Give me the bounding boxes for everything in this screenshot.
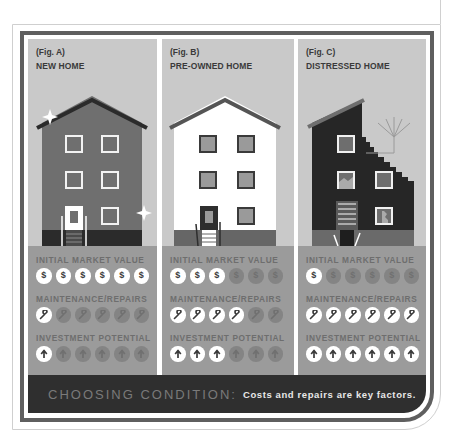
pre-owned-home-illustration bbox=[162, 39, 294, 246]
up-arrow-icon bbox=[75, 346, 91, 362]
rating-row: $$$$$$ bbox=[36, 268, 149, 284]
wrench-icon bbox=[248, 307, 264, 323]
wrench-icon bbox=[134, 307, 150, 323]
up-arrow-icon bbox=[95, 346, 111, 362]
wrench-icon bbox=[365, 307, 381, 323]
dollar-icon: $ bbox=[36, 268, 52, 284]
banner-title: CHOOSING CONDITION: bbox=[48, 387, 237, 402]
wrench-icon bbox=[306, 307, 322, 323]
dollar-icon: $ bbox=[268, 268, 284, 284]
up-arrow-icon bbox=[56, 346, 72, 362]
dollar-icon: $ bbox=[384, 268, 400, 284]
dollar-icon: $ bbox=[134, 268, 150, 284]
dollar-icon: $ bbox=[170, 268, 186, 284]
wrench-icon bbox=[56, 307, 72, 323]
wrench-icon bbox=[209, 307, 225, 323]
dollar-icon: $ bbox=[56, 268, 72, 284]
wrench-icon bbox=[384, 307, 400, 323]
new-home-illustration bbox=[28, 39, 157, 246]
figure-panel-pre-owned-home: (Fig. B) PRE-OWNED HOME INITIAL MARKET V… bbox=[162, 39, 294, 375]
up-arrow-icon bbox=[384, 346, 400, 362]
metric-label-initial-market-value: INITIAL MARKET VALUE bbox=[170, 255, 279, 265]
rating-row bbox=[306, 346, 419, 362]
summary-banner: CHOOSING CONDITION: Costs and repairs ar… bbox=[28, 375, 426, 413]
up-arrow-icon bbox=[365, 346, 381, 362]
up-arrow-icon bbox=[190, 346, 206, 362]
metric-label-investment-potential: INVESTMENT POTENTIAL bbox=[170, 333, 285, 343]
wrench-icon bbox=[326, 307, 342, 323]
up-arrow-icon bbox=[345, 346, 361, 362]
dollar-icon: $ bbox=[114, 268, 130, 284]
distressed-home-illustration bbox=[298, 39, 426, 246]
dollar-icon: $ bbox=[345, 268, 361, 284]
wrench-icon bbox=[114, 307, 130, 323]
rating-row bbox=[170, 346, 283, 362]
wrench-icon bbox=[95, 307, 111, 323]
dollar-icon: $ bbox=[326, 268, 342, 284]
dollar-icon: $ bbox=[209, 268, 225, 284]
up-arrow-icon bbox=[248, 346, 264, 362]
rating-row: $$$$$$ bbox=[306, 268, 419, 284]
dollar-icon: $ bbox=[95, 268, 111, 284]
up-arrow-icon bbox=[326, 346, 342, 362]
up-arrow-icon bbox=[209, 346, 225, 362]
rating-row bbox=[170, 307, 283, 323]
rating-row bbox=[36, 346, 149, 362]
up-arrow-icon bbox=[36, 346, 52, 362]
metric-label-maintenance-repairs: MAINTENANCE/REPAIRS bbox=[306, 294, 417, 304]
up-arrow-icon bbox=[170, 346, 186, 362]
up-arrow-icon bbox=[114, 346, 130, 362]
up-arrow-icon bbox=[229, 346, 245, 362]
rating-row bbox=[36, 307, 149, 323]
wrench-icon bbox=[268, 307, 284, 323]
dollar-icon: $ bbox=[365, 268, 381, 284]
figure-panel-new-home: (Fig. A) NEW HOME INITIAL MARKET VALUE $… bbox=[28, 39, 157, 375]
dollar-icon: $ bbox=[404, 268, 420, 284]
dollar-icon: $ bbox=[229, 268, 245, 284]
dollar-icon: $ bbox=[75, 268, 91, 284]
top-divider-line bbox=[440, 0, 441, 24]
metric-label-maintenance-repairs: MAINTENANCE/REPAIRS bbox=[36, 294, 147, 304]
metric-label-initial-market-value: INITIAL MARKET VALUE bbox=[306, 255, 415, 265]
dollar-icon: $ bbox=[306, 268, 322, 284]
metric-label-maintenance-repairs: MAINTENANCE/REPAIRS bbox=[170, 294, 281, 304]
metric-label-initial-market-value: INITIAL MARKET VALUE bbox=[36, 255, 145, 265]
up-arrow-icon bbox=[404, 346, 420, 362]
wrench-icon bbox=[75, 307, 91, 323]
wrench-icon bbox=[36, 307, 52, 323]
up-arrow-icon bbox=[268, 346, 284, 362]
dollar-icon: $ bbox=[248, 268, 264, 284]
rating-row bbox=[306, 307, 419, 323]
banner-subtitle: Costs and repairs are key factors. bbox=[243, 389, 416, 400]
metric-label-investment-potential: INVESTMENT POTENTIAL bbox=[36, 333, 151, 343]
wrench-icon bbox=[404, 307, 420, 323]
up-arrow-icon bbox=[306, 346, 322, 362]
wrench-icon bbox=[170, 307, 186, 323]
wrench-icon bbox=[190, 307, 206, 323]
up-arrow-icon bbox=[134, 346, 150, 362]
metric-label-investment-potential: INVESTMENT POTENTIAL bbox=[306, 333, 421, 343]
rating-row: $$$$$$ bbox=[170, 268, 283, 284]
dollar-icon: $ bbox=[190, 268, 206, 284]
figure-panel-distressed-home: (Fig. C) DISTRESSED HOME INITIAL MARKET … bbox=[298, 39, 426, 375]
wrench-icon bbox=[229, 307, 245, 323]
wrench-icon bbox=[345, 307, 361, 323]
